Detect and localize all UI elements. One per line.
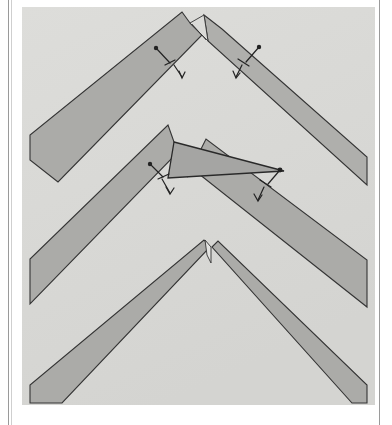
chevron-joint-illustration: [22, 7, 375, 405]
page-frame-left-rule: [8, 0, 9, 425]
photograph: [22, 7, 375, 405]
page-frame-inner-rule: [11, 0, 12, 425]
page-root: Three nested V-shaped (chevron) gray ban…: [0, 0, 392, 425]
photo-grain-overlay: [22, 7, 375, 405]
page-frame-right-rule: [379, 0, 380, 425]
